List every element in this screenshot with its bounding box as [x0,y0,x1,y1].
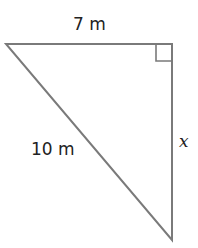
right-angle-marker [156,44,172,61]
right-triangle-figure [0,0,198,248]
hypotenuse-label: 10 m [31,141,75,158]
right-side-label: x [179,133,189,150]
top-side-label: 7 m [73,16,106,33]
